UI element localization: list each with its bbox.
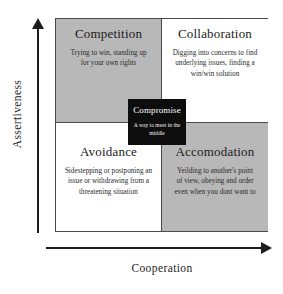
quadrant-avoidance-description: Sidestepping or postponing an issue or w…: [62, 166, 155, 197]
quadrant-accomodation-description: Yeilding to another's point of view, obe…: [168, 166, 262, 197]
cooperation-axis: [46, 242, 272, 254]
quadrant-avoidance-title: Avoidance: [62, 145, 155, 160]
quadrant-collaboration-description: Digging into concerns to find underlying…: [168, 48, 262, 79]
assertiveness-axis: [32, 18, 44, 233]
axis-line-vertical: [37, 27, 39, 233]
y-axis-label: Assertiveness: [11, 54, 23, 174]
x-axis-label: Cooperation: [55, 262, 269, 274]
quadrant-competition-description: Trying to win, standing up for your own …: [62, 48, 155, 69]
compromise-description: A way to meet in the middle: [128, 121, 186, 138]
center-box-compromise: Compromise A way to meet in the middle: [128, 99, 186, 145]
quadrant-collaboration-title: Collaboration: [168, 27, 262, 42]
compromise-title: Compromise: [128, 106, 186, 116]
quadrant-competition-title: Competition: [62, 27, 155, 42]
axis-arrow-right-icon: [261, 242, 272, 254]
quadrant-accomodation-title: Accomodation: [168, 145, 262, 160]
axis-line-horizontal: [46, 247, 261, 249]
